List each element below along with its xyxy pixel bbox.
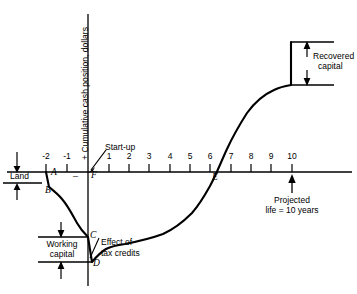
- y-axis-negative-sign: –: [73, 171, 78, 181]
- projected-life-annotation-line2: life = 10 years: [252, 206, 332, 216]
- x-tick-label-6: 6: [205, 152, 215, 162]
- point-label-a: A: [51, 168, 57, 178]
- point-label-b: B: [45, 186, 51, 196]
- x-tick-label-8: 8: [246, 152, 256, 162]
- y-axis-title: + Cumulative cash position, dollars: [80, 27, 90, 160]
- tax-credits-annotation-line1: Effect of: [101, 238, 132, 248]
- point-label-f: F: [91, 171, 97, 181]
- x-tick-label--1: -1: [59, 152, 75, 162]
- x-tick-label-9: 9: [266, 152, 276, 162]
- x-tick-label-10: 10: [285, 152, 299, 162]
- x-tick-label-7: 7: [226, 152, 236, 162]
- land-annotation: Land: [10, 172, 29, 182]
- working-capital-annotation-line2: capital: [36, 250, 88, 260]
- x-tick-label-2: 2: [124, 152, 134, 162]
- startup-annotation: Start-up: [105, 143, 135, 153]
- x-tick-label-3: 3: [144, 152, 154, 162]
- x-axis-ticks: [46, 164, 292, 172]
- point-label-c: C: [90, 231, 96, 241]
- cash-position-figure: + Cumulative cash position, dollars -2 -…: [0, 0, 357, 294]
- tax-credits-annotation-line2: tax credits: [101, 249, 140, 259]
- point-label-e: E: [212, 173, 218, 183]
- recovered-capital-annotation-line2: capital: [318, 62, 343, 72]
- projected-life-arrow: [288, 174, 295, 193]
- point-label-d: D: [93, 259, 100, 269]
- x-tick-label--2: -2: [38, 152, 54, 162]
- x-tick-label-5: 5: [185, 152, 195, 162]
- x-tick-label-1: 1: [104, 152, 114, 162]
- x-tick-label-4: 4: [165, 152, 175, 162]
